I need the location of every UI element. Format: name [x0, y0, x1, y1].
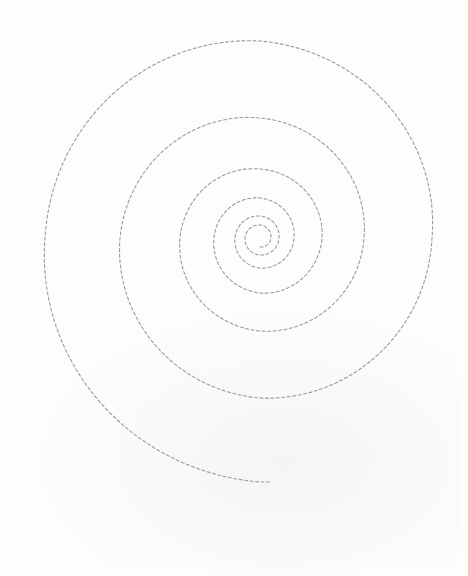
spiral-canvas	[0, 0, 468, 576]
dashed-spiral-line	[44, 41, 432, 482]
